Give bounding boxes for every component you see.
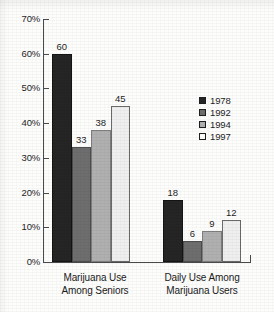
bar-value-label: 60 [46,42,78,52]
bar-chart: 0%10%20%30%40%50%60%70% 60333845186912 M… [0,0,274,312]
y-axis-label: 70% [0,14,40,24]
legend-swatch-icon [199,109,206,116]
group-caption-1-line1: Daily Use Among [142,272,262,285]
bar-value-label: 12 [216,208,248,218]
y-axis-label: 30% [0,153,40,163]
legend-label: 1997 [210,132,231,142]
group-caption-1-line2: Marijuana Users [142,285,262,298]
bar-value-label: 33 [66,135,98,145]
baseline-end-tick [250,255,251,263]
bar-value-label: 18 [157,188,189,198]
bar-1997-group0 [111,106,131,262]
legend-item-1997[interactable]: 1997 [199,131,231,143]
y-axis-label: 40% [0,118,40,128]
legend-item-1994[interactable]: 1994 [199,119,231,131]
bar-1992-group1 [183,241,203,262]
group-caption-0: Marijuana Use Among Seniors [35,272,155,297]
bar-1978-group0 [52,54,72,262]
legend-swatch-icon [199,133,206,140]
legend-label: 1994 [210,120,231,130]
legend-swatch-icon [199,97,206,104]
legend-item-1992[interactable]: 1992 [199,107,231,119]
bar-1992-group0 [72,147,92,262]
bar-value-label: 6 [177,229,209,239]
y-axis-label: 20% [0,188,40,198]
bar-value-label: 45 [105,94,137,104]
bar-1994-group0 [91,130,111,262]
y-axis-tick [44,262,49,263]
legend-swatch-icon [199,121,206,128]
group-caption-0-line1: Marijuana Use [35,272,155,285]
legend-label: 1978 [210,96,231,106]
legend-item-1978[interactable]: 1978 [199,95,231,107]
bar-value-label: 38 [85,118,117,128]
bar-value-label: 9 [196,219,228,229]
legend: 1978199219941997 [199,95,231,143]
y-axis-label: 10% [0,222,40,232]
y-axis-label: 60% [0,49,40,59]
group-caption-0-line2: Among Seniors [35,285,155,298]
y-axis-label: 0% [0,257,40,267]
legend-label: 1992 [210,108,231,118]
x-axis-baseline [43,262,251,263]
y-axis-label: 50% [0,83,40,93]
group-caption-1: Daily Use Among Marijuana Users [142,272,262,297]
